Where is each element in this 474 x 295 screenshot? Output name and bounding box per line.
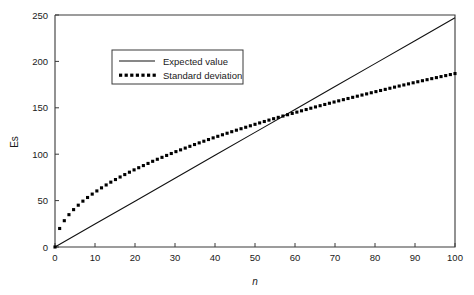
marker-standard-deviation	[402, 83, 405, 86]
marker-standard-deviation	[105, 183, 108, 186]
marker-standard-deviation	[333, 100, 336, 103]
marker-standard-deviation	[142, 164, 145, 167]
x-axis-ticks	[55, 243, 455, 247]
marker-standard-deviation	[337, 99, 340, 102]
marker-standard-deviation	[230, 130, 233, 133]
marker-standard-deviation	[430, 77, 433, 80]
marker-standard-deviation	[160, 156, 163, 159]
marker-standard-deviation	[277, 116, 280, 119]
y-tick-label: 200	[32, 56, 48, 67]
marker-standard-deviation	[212, 136, 215, 139]
marker-standard-deviation	[58, 227, 61, 230]
chart-figure: 0102030405060708090100 050100150200250 n…	[0, 0, 474, 295]
marker-standard-deviation	[342, 98, 345, 101]
series-standard-deviation	[53, 72, 456, 249]
marker-standard-deviation	[207, 138, 210, 141]
marker-standard-deviation	[216, 135, 219, 138]
marker-standard-deviation	[258, 121, 261, 124]
marker-standard-deviation	[407, 82, 410, 85]
x-tick-label: 20	[130, 252, 141, 263]
marker-standard-deviation	[370, 91, 373, 94]
marker-standard-deviation	[300, 109, 303, 112]
marker-standard-deviation	[295, 111, 298, 114]
marker-standard-deviation	[81, 200, 84, 203]
legend-dot	[119, 74, 122, 77]
marker-standard-deviation	[151, 160, 154, 163]
marker-standard-deviation	[444, 74, 447, 77]
legend-dot	[125, 74, 128, 77]
marker-standard-deviation	[291, 112, 294, 115]
marker-standard-deviation	[119, 175, 122, 178]
legend-dot	[153, 74, 156, 77]
marker-standard-deviation	[221, 133, 224, 136]
x-tick-label: 30	[170, 252, 181, 263]
chart-plot: 0102030405060708090100 050100150200250 n…	[0, 0, 474, 295]
marker-standard-deviation	[346, 97, 349, 100]
marker-standard-deviation	[188, 145, 191, 148]
marker-standard-deviation	[128, 171, 131, 174]
marker-standard-deviation	[165, 154, 168, 157]
legend-dot	[136, 74, 139, 77]
marker-standard-deviation	[244, 126, 247, 129]
x-tick-label: 0	[52, 252, 57, 263]
marker-standard-deviation	[146, 162, 149, 165]
marker-standard-deviation	[449, 73, 452, 76]
y-tick-label: 100	[32, 149, 48, 160]
x-tick-label: 90	[410, 252, 421, 263]
y-tick-label: 50	[37, 195, 48, 206]
legend-dot	[147, 74, 150, 77]
x-tick-label: 80	[370, 252, 381, 263]
marker-standard-deviation	[305, 108, 308, 111]
marker-standard-deviation	[63, 219, 66, 222]
y-axis-ticks	[55, 15, 59, 247]
x-tick-label: 50	[250, 252, 261, 263]
marker-standard-deviation	[416, 80, 419, 83]
marker-standard-deviation	[351, 96, 354, 99]
marker-standard-deviation	[384, 88, 387, 91]
marker-standard-deviation	[235, 129, 238, 132]
marker-standard-deviation	[253, 123, 256, 126]
x-tick-label: 100	[447, 252, 463, 263]
x-tick-label: 10	[90, 252, 101, 263]
x-axis-title: n	[252, 276, 258, 287]
marker-standard-deviation	[309, 107, 312, 110]
marker-standard-deviation	[374, 90, 377, 93]
y-tick-label: 250	[32, 10, 48, 21]
marker-standard-deviation	[91, 193, 94, 196]
marker-standard-deviation	[388, 87, 391, 90]
marker-standard-deviation	[314, 105, 317, 108]
marker-standard-deviation	[184, 147, 187, 150]
legend-label-standard-deviation: Standard deviation	[163, 70, 242, 81]
marker-standard-deviation	[263, 120, 266, 123]
marker-standard-deviation	[170, 152, 173, 155]
x-tick-label: 70	[330, 252, 341, 263]
y-axis-title: Es	[9, 136, 20, 148]
marker-standard-deviation	[86, 196, 89, 199]
marker-standard-deviation	[174, 150, 177, 153]
marker-standard-deviation	[179, 148, 182, 151]
y-axis-tick-labels: 050100150200250	[32, 10, 48, 253]
marker-standard-deviation	[319, 104, 322, 107]
marker-standard-deviation	[193, 143, 196, 146]
marker-standard-deviation	[100, 186, 103, 189]
marker-standard-deviation	[356, 95, 359, 98]
marker-standard-deviation	[393, 86, 396, 89]
legend-dot	[130, 74, 133, 77]
marker-standard-deviation	[67, 213, 70, 216]
marker-standard-deviation	[240, 127, 243, 130]
marker-standard-deviation	[440, 75, 443, 78]
marker-standard-deviation	[133, 168, 136, 171]
marker-standard-deviation	[281, 115, 284, 118]
marker-standard-deviation	[323, 103, 326, 106]
marker-standard-deviation	[421, 79, 424, 82]
marker-standard-deviation	[123, 173, 126, 176]
marker-standard-deviation	[286, 113, 289, 116]
marker-standard-deviation	[328, 102, 331, 105]
marker-standard-deviation	[412, 81, 415, 84]
marker-standard-deviation	[114, 178, 117, 181]
marker-standard-deviation	[435, 76, 438, 79]
chart-legend: Expected value Standard deviation	[112, 50, 243, 84]
marker-standard-deviation	[156, 158, 159, 161]
legend-label-expected-value: Expected value	[163, 56, 228, 67]
marker-standard-deviation	[398, 84, 401, 87]
